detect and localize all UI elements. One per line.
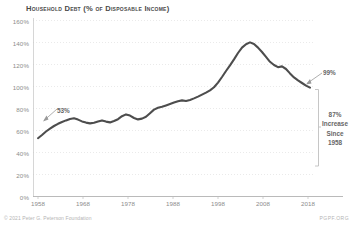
annotation-end-value: 99% [323, 68, 336, 77]
start-annotation-arrow [43, 109, 57, 122]
debt-line-series [38, 42, 310, 138]
x-tick-label: 2018 [301, 200, 315, 207]
x-tick-label: 1958 [31, 200, 45, 207]
x-tick-label: 1998 [211, 200, 225, 207]
end-annotation-arrow [306, 73, 322, 85]
x-tick-label: 1978 [121, 200, 135, 207]
annotation-start-value: 53% [57, 106, 70, 115]
x-tick-label: 1988 [166, 200, 180, 207]
copyright-text: © 2021 Peter G. Peterson Foundation [4, 215, 92, 221]
x-tick-label: 2008 [256, 200, 270, 207]
callout-line-1: 87% [318, 110, 352, 119]
chart-container: Household Debt (% of Disposable Income) … [0, 0, 354, 228]
gridlines [33, 21, 315, 175]
x-tick-label: 1968 [76, 200, 90, 207]
annotation-increase-callout: 87% Increase Since 1958 [318, 110, 352, 147]
callout-line-4: 1958 [318, 138, 352, 147]
site-url-text: PGPF.ORG [320, 215, 349, 221]
callout-line-3: Since [318, 129, 352, 138]
callout-line-2: Increase [318, 119, 352, 128]
chart-plot-area [0, 0, 354, 228]
